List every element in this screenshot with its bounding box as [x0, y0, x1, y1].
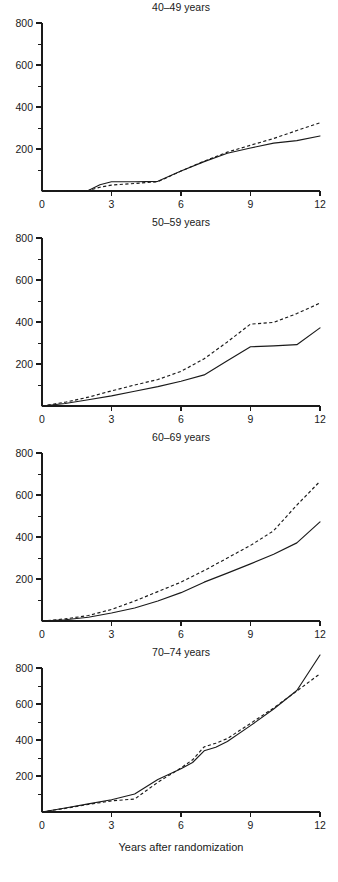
panel-title: 40–49 years	[152, 1, 210, 13]
series-line-solid	[42, 328, 320, 406]
chart-panel: 40–49 years200400600800036912	[0, 0, 338, 215]
x-tick-label: 12	[314, 198, 326, 210]
panel-title: 60–69 years	[152, 431, 210, 443]
y-tick-label: 400	[15, 101, 33, 113]
y-tick-label: 400	[15, 531, 33, 543]
y-tick-label: 600	[15, 59, 33, 71]
x-tick-label: 0	[39, 628, 45, 640]
y-tick-label: 200	[15, 143, 33, 155]
x-tick-label: 3	[109, 628, 115, 640]
chart-svg: 40–49 years200400600800036912	[0, 0, 338, 215]
series-line-dashed	[42, 123, 320, 191]
x-tick-label: 6	[178, 413, 184, 425]
x-tick-label: 3	[109, 198, 115, 210]
x-tick-label: 6	[178, 628, 184, 640]
y-tick-label: 600	[15, 489, 33, 501]
series-line-dashed	[42, 303, 320, 406]
y-tick-label: 400	[15, 734, 33, 746]
figure-container: 40–49 years20040060080003691250–59 years…	[0, 0, 338, 882]
x-tick-label: 9	[248, 819, 254, 831]
y-tick-label: 800	[15, 447, 33, 459]
y-tick-label: 400	[15, 316, 33, 328]
x-tick-label: 12	[314, 413, 326, 425]
series-line-dashed	[42, 674, 320, 812]
x-axis-title: Years after randomization	[119, 841, 244, 853]
x-tick-label: 12	[314, 819, 326, 831]
y-tick-label: 800	[15, 232, 33, 244]
y-tick-label: 800	[15, 662, 33, 674]
x-tick-label: 0	[39, 819, 45, 831]
x-tick-label: 9	[248, 198, 254, 210]
series-line-solid	[42, 136, 320, 191]
x-tick-label: 9	[248, 413, 254, 425]
chart-svg: 70–74 years200400600800036912Years after…	[0, 645, 338, 882]
panel-title: 70–74 years	[152, 646, 210, 658]
panel-title: 50–59 years	[152, 216, 210, 228]
x-tick-label: 9	[248, 628, 254, 640]
y-tick-label: 200	[15, 358, 33, 370]
chart-svg: 60–69 years200400600800036912	[0, 430, 338, 645]
chart-panel: 60–69 years200400600800036912	[0, 430, 338, 645]
series-line-solid	[42, 522, 320, 621]
y-tick-label: 200	[15, 770, 33, 782]
y-tick-label: 800	[15, 17, 33, 29]
x-tick-label: 0	[39, 413, 45, 425]
series-line-solid	[42, 655, 320, 812]
x-tick-label: 3	[109, 413, 115, 425]
y-tick-label: 600	[15, 698, 33, 710]
x-tick-label: 12	[314, 628, 326, 640]
x-tick-label: 6	[178, 819, 184, 831]
chart-svg: 50–59 years200400600800036912	[0, 215, 338, 430]
series-line-dashed	[42, 481, 320, 621]
chart-panel: 70–74 years200400600800036912Years after…	[0, 645, 338, 882]
chart-panel: 50–59 years200400600800036912	[0, 215, 338, 430]
x-tick-label: 0	[39, 198, 45, 210]
x-tick-label: 3	[109, 819, 115, 831]
y-tick-label: 200	[15, 573, 33, 585]
x-tick-label: 6	[178, 198, 184, 210]
y-tick-label: 600	[15, 274, 33, 286]
